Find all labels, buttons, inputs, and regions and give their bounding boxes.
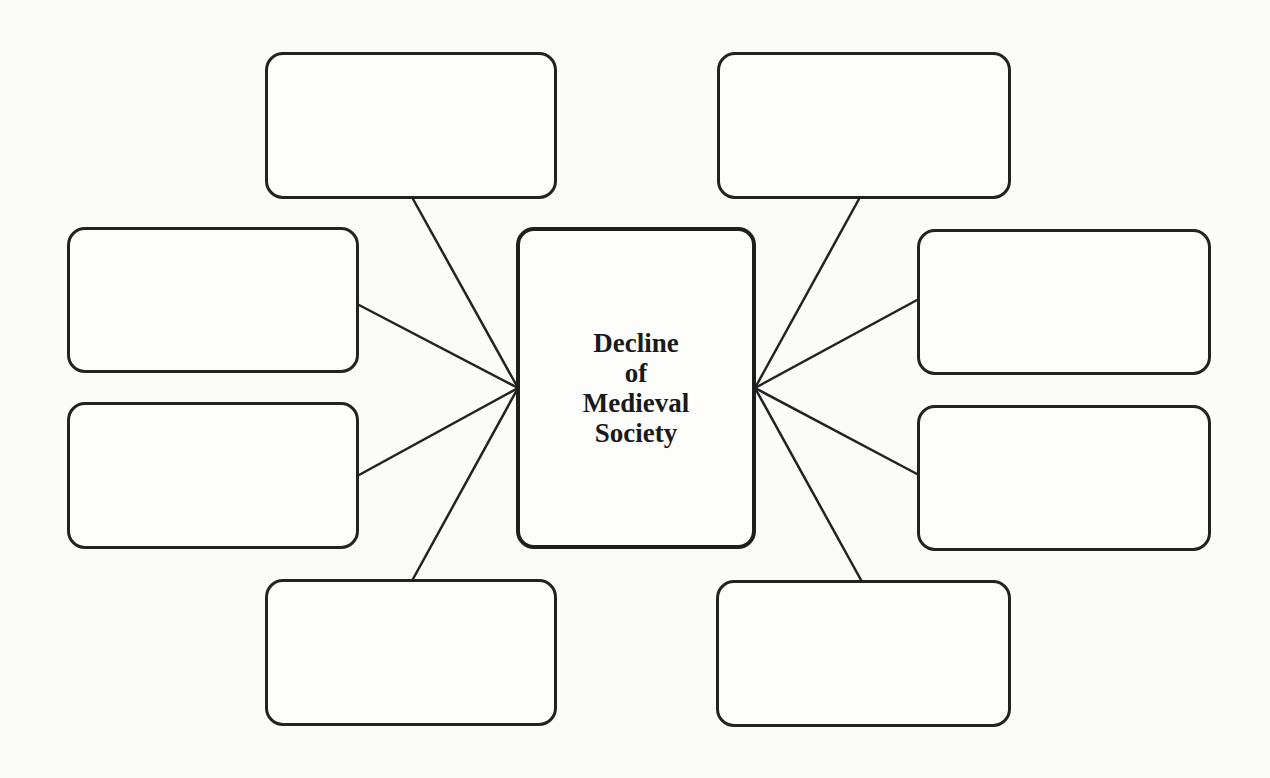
satellite-box-top-right (717, 52, 1011, 199)
satellite-box-top-left (265, 52, 557, 199)
satellite-box-bottom-left (265, 579, 557, 726)
satellite-box-left-lower (67, 402, 359, 549)
satellite-box-right-upper (917, 229, 1211, 375)
satellite-box-left-upper (67, 227, 359, 373)
central-topic-title: Decline of Medieval Society (583, 328, 689, 448)
satellite-box-bottom-right (716, 580, 1011, 727)
satellite-box-right-lower (917, 405, 1211, 551)
central-topic-box: Decline of Medieval Society (516, 227, 756, 549)
